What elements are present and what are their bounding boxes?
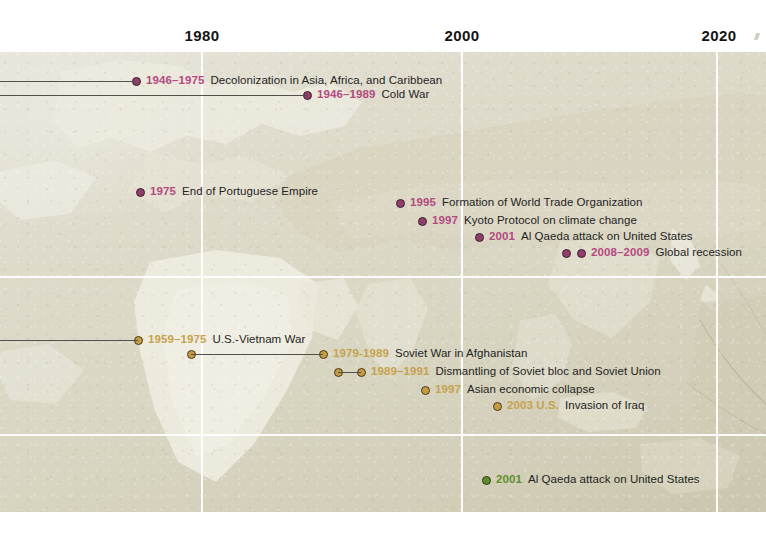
event-description: Invasion of Iraq (565, 400, 644, 412)
timeline-map-figure: 1980 2000 2020 1946–1975 Decolonization … (0, 0, 766, 534)
span-line-soviet-war-afghanistan (191, 354, 323, 355)
event-wto-formation[interactable]: 1995 Formation of World Trade Organizati… (396, 196, 642, 210)
event-year: 1989–1991 (371, 366, 429, 378)
event-dismantling-soviet-bloc[interactable]: 1989–1991 Dismantling of Soviet bloc and… (357, 365, 661, 379)
event-description: U.S.-Vietnam War (212, 334, 305, 346)
event-year: 2003 U.S. (507, 400, 559, 412)
axis-tick-1980: 1980 (185, 27, 220, 44)
event-us-invasion-iraq[interactable]: 2003 U.S. Invasion of Iraq (493, 399, 644, 413)
event-dot-icon (421, 386, 430, 395)
event-description: Al Qaeda attack on United States (521, 231, 693, 243)
event-description: Soviet War in Afghanistan (395, 348, 528, 360)
event-year: 1946–1975 (146, 75, 204, 87)
event-year: 2008–2009 (591, 247, 649, 259)
event-asian-economic-collapse[interactable]: 1997 Asian economic collapse (421, 383, 595, 397)
event-year: 2001 (496, 474, 522, 486)
timeline-axis-band: 1980 2000 2020 (0, 0, 766, 52)
event-year: 1995 (410, 197, 436, 209)
event-description: Global recession (655, 247, 741, 259)
event-description: End of Portuguese Empire (182, 186, 318, 198)
event-end-portuguese-empire[interactable]: 1975 End of Portuguese Empire (136, 185, 318, 199)
event-cold-war[interactable]: 1946–1989 Cold War (303, 88, 429, 102)
event-year: 1979-1989 (333, 348, 389, 360)
event-kyoto-protocol[interactable]: 1997 Kyoto Protocol on climate change (418, 214, 637, 228)
axis-tick-2020: 2020 (702, 27, 737, 44)
event-al-qaeda-attack-purple[interactable]: 2001 Al Qaeda attack on United States (475, 230, 693, 244)
event-description: Kyoto Protocol on climate change (464, 215, 637, 227)
event-soviet-war-afghanistan[interactable]: 1979-1989 Soviet War in Afghanistan (319, 347, 527, 361)
span-line-dismantling-soviet-bloc (338, 372, 361, 373)
event-global-recession[interactable]: 2008–2009 Global recession (562, 246, 742, 260)
event-description: Asian economic collapse (467, 384, 595, 396)
event-year: 1959–1975 (148, 334, 206, 346)
event-dot-icon (482, 476, 491, 485)
event-description: Cold War (381, 89, 429, 101)
event-dot-icon (577, 249, 586, 258)
event-dot-icon (396, 199, 405, 208)
span-line-cold-war (0, 95, 307, 96)
event-dot-icon (136, 188, 145, 197)
event-decolonization[interactable]: 1946–1975 Decolonization in Asia, Africa… (132, 74, 442, 88)
event-dot-icon (562, 249, 571, 258)
event-dot-icon (418, 217, 427, 226)
event-description: Formation of World Trade Organization (442, 197, 642, 209)
events-layer: 1946–1975 Decolonization in Asia, Africa… (0, 0, 766, 534)
event-dot-icon (493, 402, 502, 411)
event-dot-pair (562, 249, 586, 258)
span-line-us-vietnam-war (0, 340, 138, 341)
event-al-qaeda-attack-green[interactable]: 2001 Al Qaeda attack on United States (482, 473, 700, 487)
event-year: 2001 (489, 231, 515, 243)
event-year: 1997 (435, 384, 461, 396)
event-year: 1975 (150, 186, 176, 198)
event-year: 1997 (432, 215, 458, 227)
event-year: 1946–1989 (317, 89, 375, 101)
event-description: Decolonization in Asia, Africa, and Cari… (210, 75, 442, 87)
event-dot-icon (475, 233, 484, 242)
span-line-decolonization (0, 81, 136, 82)
axis-tick-2000: 2000 (445, 27, 480, 44)
event-description: Al Qaeda attack on United States (528, 474, 700, 486)
event-us-vietnam-war[interactable]: 1959–1975 U.S.-Vietnam War (134, 333, 305, 347)
event-description: Dismantling of Soviet bloc and Soviet Un… (435, 366, 660, 378)
figure-bottom-margin (0, 512, 766, 534)
